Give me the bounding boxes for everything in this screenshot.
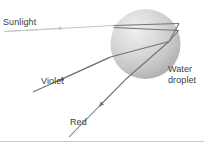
red-label: Red (70, 117, 87, 128)
sunlight-label: Sunlight (3, 17, 36, 28)
water-droplet-label-line1: Water (168, 64, 192, 74)
red-direction-arrow (99, 79, 126, 107)
water-droplet-label: Waterdroplet (168, 64, 196, 85)
water-droplet-label-line2: droplet (168, 75, 196, 85)
rainbow-droplet-diagram: Sunlight Violet Red Waterdroplet (0, 0, 204, 142)
bottom-divider (0, 141, 204, 142)
violet-label: Violet (41, 76, 64, 87)
violet-direction-arrow (59, 57, 111, 81)
sunlight-direction-arrow (4, 28, 63, 31)
